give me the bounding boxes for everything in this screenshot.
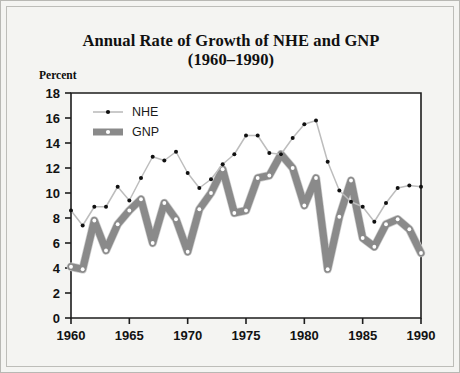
data-point <box>69 209 73 213</box>
legend-gnp-label: GNP <box>132 125 159 139</box>
data-point <box>396 217 400 221</box>
legend-nhe-marker <box>106 110 110 114</box>
data-point <box>349 179 353 183</box>
data-point <box>139 176 143 180</box>
data-point <box>407 184 411 188</box>
y-tick-label: 14 <box>46 136 61 151</box>
data-point <box>291 166 295 170</box>
data-point <box>81 224 85 228</box>
y-tick-label: 8 <box>53 211 60 226</box>
data-point <box>337 215 341 219</box>
data-point <box>314 119 318 123</box>
data-point <box>151 155 155 159</box>
data-point <box>127 209 131 213</box>
x-tick-labels: 1960196519701975198019851990 <box>57 328 436 343</box>
data-point <box>396 186 400 190</box>
x-tick-label: 1985 <box>348 328 377 343</box>
x-tick-label: 1975 <box>232 328 261 343</box>
x-tick-label: 1960 <box>57 328 86 343</box>
y-tick-label: 4 <box>53 261 61 276</box>
x-tick-label: 1970 <box>173 328 202 343</box>
plot-area-wrapper: 024681012141618 196019651970197519801985… <box>1 1 460 373</box>
legend-gnp-marker <box>106 130 110 134</box>
data-point <box>256 176 260 180</box>
data-point <box>419 251 423 255</box>
data-point <box>221 167 225 171</box>
x-tick-label: 1990 <box>407 328 436 343</box>
data-point <box>174 150 178 154</box>
data-point <box>92 219 96 223</box>
data-point <box>174 217 178 221</box>
data-point <box>244 209 248 213</box>
data-point <box>116 222 120 226</box>
data-point <box>221 162 225 166</box>
y-tick-label: 2 <box>53 286 60 301</box>
data-point <box>209 191 213 195</box>
data-point <box>361 205 365 209</box>
data-point <box>92 205 96 209</box>
data-point <box>162 159 166 163</box>
data-point <box>419 185 423 189</box>
data-point <box>232 152 236 156</box>
y-tick-label: 10 <box>46 186 60 201</box>
y-tick-label: 12 <box>46 161 60 176</box>
data-point <box>186 171 190 175</box>
data-point <box>197 207 201 211</box>
y-tick-label: 16 <box>46 111 60 126</box>
data-point <box>267 174 271 178</box>
legend-nhe-label: NHE <box>132 105 158 119</box>
data-point <box>337 189 341 193</box>
data-point <box>116 185 120 189</box>
data-point <box>162 201 166 205</box>
data-point <box>256 134 260 138</box>
data-point <box>139 197 143 201</box>
x-tick-label: 1965 <box>115 328 144 343</box>
chart-svg: 024681012141618 196019651970197519801985… <box>1 1 460 373</box>
data-point <box>104 205 108 209</box>
data-point <box>384 222 388 226</box>
x-tick-label: 1980 <box>290 328 319 343</box>
data-point <box>197 186 201 190</box>
data-point <box>302 204 306 208</box>
data-point <box>372 245 376 249</box>
chart-figure: Annual Rate of Growth of NHE and GNP (19… <box>0 0 460 373</box>
data-point <box>104 249 108 253</box>
data-point <box>326 267 330 271</box>
data-point <box>244 134 248 138</box>
y-tick-label: 0 <box>53 311 60 326</box>
data-point <box>302 122 306 126</box>
data-point <box>186 250 190 254</box>
data-point <box>151 241 155 245</box>
data-point <box>69 265 73 269</box>
data-point <box>372 220 376 224</box>
y-axis-ticks <box>65 93 71 318</box>
y-tick-labels: 024681012141618 <box>46 86 61 326</box>
data-point <box>127 199 131 203</box>
data-point <box>326 160 330 164</box>
data-point <box>279 152 283 156</box>
data-point <box>267 151 271 155</box>
data-point <box>81 267 85 271</box>
data-point <box>407 227 411 231</box>
data-point <box>314 176 318 180</box>
data-point <box>361 236 365 240</box>
x-axis-ticks <box>71 318 421 324</box>
data-point <box>291 136 295 140</box>
data-point <box>232 211 236 215</box>
y-tick-label: 18 <box>46 86 60 101</box>
data-point <box>384 201 388 205</box>
data-point <box>209 177 213 181</box>
y-tick-label: 6 <box>53 236 60 251</box>
data-point <box>349 200 353 204</box>
